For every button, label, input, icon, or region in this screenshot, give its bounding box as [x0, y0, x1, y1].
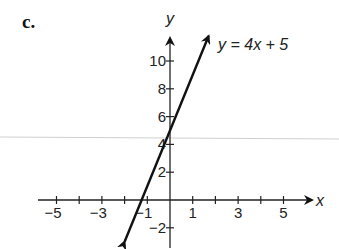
svg-text:6: 6 — [158, 108, 166, 125]
graph: c. −5−3−1135 −2246810 x y y = 4x + 5 — [0, 0, 339, 249]
svg-text:3: 3 — [234, 204, 242, 221]
svg-text:−3: −3 — [90, 204, 107, 221]
svg-text:8: 8 — [158, 80, 166, 97]
equation-label: y = 4x + 5 — [217, 36, 288, 53]
svg-text:2: 2 — [158, 163, 166, 180]
svg-text:1: 1 — [189, 204, 197, 221]
part-label: c. — [22, 11, 35, 32]
svg-text:5: 5 — [279, 204, 287, 221]
svg-text:−5: −5 — [44, 204, 61, 221]
svg-text:−2: −2 — [149, 219, 166, 236]
y-axis-label: y — [165, 10, 175, 27]
svg-text:10: 10 — [149, 52, 166, 69]
x-axis-label: x — [315, 192, 325, 209]
